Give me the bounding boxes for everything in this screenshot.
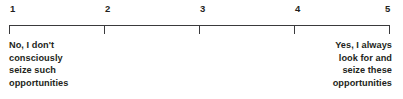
anchor-high-line-2: look for and (242, 52, 392, 65)
anchor-low-line-4: opportunities (9, 77, 159, 90)
tick-label-1: 1 (10, 3, 15, 14)
tick-label-4: 4 (295, 3, 300, 14)
tick-mark-3[interactable] (199, 25, 200, 34)
anchor-low-line-1: No, I don't (9, 39, 159, 52)
anchor-low-line-2: consciously (9, 52, 159, 65)
anchor-high-line-4: opportunities (242, 77, 392, 90)
tick-label-3: 3 (200, 3, 205, 14)
tick-mark-1[interactable] (9, 25, 10, 34)
anchor-high-line-1: Yes, I always (242, 39, 392, 52)
anchor-low-line-3: seize such (9, 64, 159, 77)
scale-axis-line (9, 25, 390, 26)
tick-mark-5[interactable] (389, 25, 390, 34)
tick-label-2: 2 (105, 3, 110, 14)
tick-mark-2[interactable] (104, 25, 105, 34)
anchor-high-line-3: seize these (242, 64, 392, 77)
tick-label-row: 1 2 3 4 5 (0, 0, 403, 20)
anchor-label-high: Yes, I always look for and seize these o… (242, 39, 392, 89)
tick-mark-4[interactable] (294, 25, 295, 34)
tick-label-5: 5 (385, 3, 390, 14)
anchor-label-low: No, I don't consciously seize such oppor… (9, 39, 159, 89)
likert-scale-widget: 1 2 3 4 5 No, I don't consciously seize … (0, 0, 403, 99)
